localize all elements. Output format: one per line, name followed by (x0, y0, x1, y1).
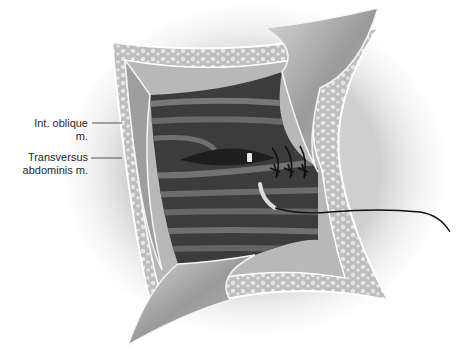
label-transversus-line2: abdominis m. (10, 164, 88, 177)
label-transversus: Transversus abdominis m. (10, 151, 88, 177)
label-transversus-line1: Transversus (10, 151, 88, 164)
label-int-oblique: Int. oblique m. (24, 117, 88, 143)
